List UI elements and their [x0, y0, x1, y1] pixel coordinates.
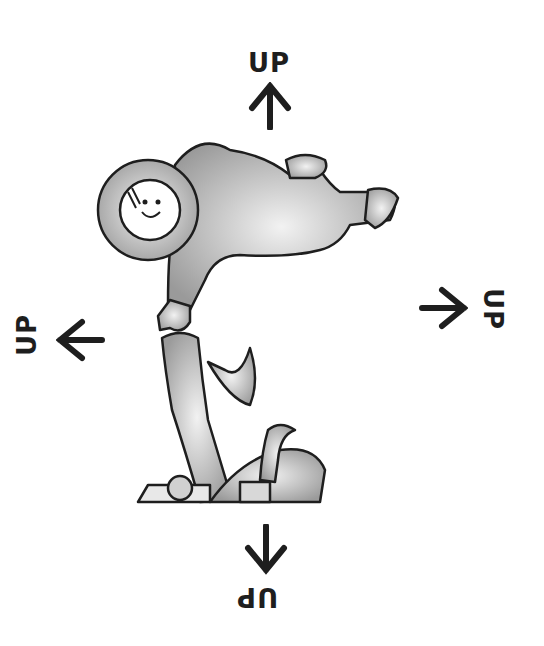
- arrow-up-icon: [248, 82, 292, 130]
- up-label-right: UP: [480, 288, 506, 330]
- arrow-down-icon: [244, 524, 288, 576]
- up-label-bottom: UP: [236, 584, 278, 610]
- arrow-right-icon: [418, 286, 468, 330]
- astronaut-illustration: [90, 130, 420, 510]
- up-label-top: UP: [248, 50, 290, 76]
- up-label-left: UP: [14, 314, 40, 356]
